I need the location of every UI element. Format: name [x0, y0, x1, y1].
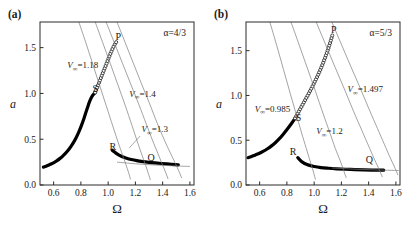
x-tick-label: 1.4 [157, 188, 169, 198]
panel-tag-label: (b) [214, 8, 228, 21]
x-tick-label: 1.4 [363, 188, 375, 198]
series-vinf-curve-rightmost [332, 22, 398, 175]
vinf-value: =0.985 [265, 104, 291, 114]
alpha-annotation: α=4/3 [164, 28, 187, 38]
plot-frame [40, 22, 194, 185]
panel-a: (a)0.60.81.01.21.41.60.00.51.01.5Ωaα=4/3… [0, 0, 206, 231]
y-tick-label: 1.0 [230, 91, 242, 101]
vinf-label-group: V∞=1.497 [348, 84, 384, 95]
point-label-s: S [92, 83, 98, 94]
panel-b-plot: (b)0.60.81.01.21.41.60.00.51.01.5Ωaα=5/3… [206, 0, 413, 231]
vinf-annotation: V∞=1.3 [142, 124, 169, 135]
vinf-annotation: V∞=1.4 [129, 89, 156, 100]
point-label-q: Q [366, 154, 374, 165]
panel-b: (b)0.60.81.01.21.41.60.00.51.01.5Ωaα=5/3… [206, 0, 413, 231]
panel-a-plot: (a)0.60.81.01.21.41.60.00.51.01.5Ωaα=4/3… [0, 0, 206, 231]
point-label-r: R [290, 146, 297, 157]
point-label-p: P [331, 24, 337, 35]
vinf-label-group: V∞=1.18 [67, 60, 98, 71]
x-tick-label: 1.2 [335, 188, 347, 198]
series-response-branch-lower-stable [248, 118, 295, 157]
point-label-r: R [110, 141, 117, 152]
curves-group [248, 22, 399, 180]
y-tick-label: 0.5 [24, 135, 36, 145]
point-label-s: S [296, 112, 302, 123]
y-tick-label: 1.5 [230, 46, 242, 56]
vinf-value: =1.497 [358, 84, 384, 94]
point-label-q: Q [147, 152, 155, 163]
vinf-label-group: V∞=1.2 [316, 126, 342, 137]
x-axis-title: Ω [318, 201, 328, 216]
x-tick-label: 1.6 [184, 188, 196, 198]
vinf-annotation: V∞=1.497 [348, 84, 384, 95]
vinf-value: =1.4 [139, 89, 156, 99]
alpha-annotation: α=5/3 [370, 28, 393, 38]
point-label-p: P [116, 31, 122, 42]
vinf-annotation: V∞=0.985 [255, 104, 291, 115]
x-tick-label: 0.6 [254, 188, 266, 198]
y-tick-label: 0.5 [230, 136, 242, 146]
x-tick-label: 0.8 [75, 188, 87, 198]
x-tick-label: 0.8 [281, 188, 293, 198]
y-tick-label: 0.0 [230, 180, 242, 190]
x-tick-label: 0.6 [48, 188, 60, 198]
series-vinf-curve-1.18 [79, 22, 131, 180]
series-vinf-curve-1.2 [291, 22, 346, 178]
x-tick-label: 1.0 [308, 188, 320, 198]
vinf-value: =1.18 [77, 60, 98, 70]
panel-tag-label: (a) [8, 8, 22, 21]
vinf-value: =1.2 [326, 126, 342, 136]
y-axis-title: a [216, 97, 222, 111]
y-tick-label: 1.0 [24, 89, 36, 99]
series-response-branch-lower-stable [43, 93, 95, 168]
x-tick-label: 1.0 [102, 188, 114, 198]
x-axis-title: Ω [112, 201, 122, 216]
series-vinf-curve-1.4 [106, 22, 168, 179]
vinf-value: =1.3 [152, 124, 169, 134]
vinf-label-group: V∞=0.985 [255, 104, 291, 115]
y-axis-title: a [10, 97, 16, 111]
x-tick-label: 1.6 [390, 188, 402, 198]
vinf-annotation: V∞=1.2 [316, 126, 342, 137]
y-tick-label: 1.5 [24, 43, 36, 53]
figure-two-panel: (a)0.60.81.01.21.41.60.00.51.01.5Ωaα=4/3… [0, 0, 413, 231]
y-tick-label: 0.0 [24, 180, 36, 190]
curves-group [43, 22, 190, 180]
vinf-label-group: V∞=1.4 [129, 89, 156, 100]
vinf-annotation: V∞=1.18 [67, 60, 98, 71]
x-tick-label: 1.2 [129, 188, 141, 198]
